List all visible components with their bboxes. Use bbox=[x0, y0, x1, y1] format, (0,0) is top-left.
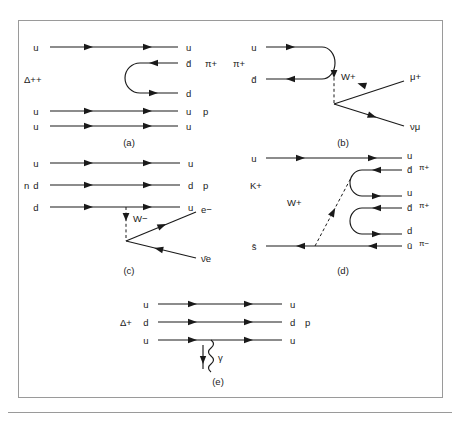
panel-d-line-0-left: u bbox=[251, 153, 256, 164]
panel-a-line-4-left: u bbox=[33, 121, 38, 132]
panel-d-line-1-right: d̄ bbox=[407, 164, 412, 175]
panel-a-line-3-left: u bbox=[33, 106, 38, 117]
panel-c-line-1-right: d bbox=[188, 180, 193, 191]
panel-c-boson-label: W− bbox=[133, 213, 148, 224]
panel-d: K+ u u d̄ u d̄ d s̄ ū π+ π+ π− W+ (d) bbox=[250, 150, 430, 276]
panel-b-initial-particle: π+ bbox=[233, 58, 246, 69]
panel-b: π+ u d̄ W+ μ+ νμ (b) bbox=[233, 42, 421, 149]
panel-c-line-0-left: u bbox=[33, 158, 38, 169]
panel-c-line-1-left: d bbox=[33, 180, 38, 191]
panel-d-meson-1: π+ bbox=[419, 201, 430, 210]
panel-d-line-2-right: u bbox=[407, 187, 412, 198]
panel-a-caption: (a) bbox=[123, 137, 135, 148]
photon-arrowhead bbox=[200, 356, 206, 364]
panel-d-boson-label: W+ bbox=[287, 197, 302, 208]
panel-a-meson-label: π+ bbox=[205, 58, 218, 69]
panel-e: u u d d u u Δ+ p γ (e) bbox=[120, 299, 310, 388]
panel-d-meson-0: π+ bbox=[419, 163, 430, 172]
panel-d-caption: (d) bbox=[337, 265, 349, 276]
panel-b-boson-label: W+ bbox=[341, 71, 356, 82]
panel-e-line-0-right: u bbox=[290, 299, 295, 310]
panel-c-w-arrowhead bbox=[123, 213, 130, 221]
panel-a-line-3-right: u bbox=[186, 106, 191, 117]
panel-d-line-5-left: s̄ bbox=[252, 241, 257, 252]
panel-d-line-0-right: u bbox=[407, 150, 412, 161]
panel-e-caption: (e) bbox=[212, 376, 224, 387]
panel-a-initial-particle: Δ++ bbox=[24, 74, 42, 85]
panel-b-caption: (b) bbox=[337, 137, 349, 148]
feynman-diagram-figure: u u d̄ d π+ u u u u Δ++ p (a) π+ u d̄ bbox=[0, 0, 461, 428]
panel-c-line-2-left: d bbox=[33, 202, 38, 213]
panel-e-boson-label: γ bbox=[218, 352, 223, 363]
panel-c-line-2-right: u bbox=[188, 202, 193, 213]
panel-c-lepton-1: ν̄e bbox=[201, 253, 211, 264]
panel-c-final-particle: p bbox=[203, 180, 208, 191]
panel-c-line-0-right: u bbox=[188, 158, 193, 169]
panel-a-line-1-right: d̄ bbox=[186, 58, 191, 69]
panel-b-line-1-left: d̄ bbox=[251, 74, 256, 85]
diagram-canvas: u u d̄ d π+ u u u u Δ++ p (a) π+ u d̄ bbox=[0, 0, 461, 428]
panel-e-final-particle: p bbox=[305, 317, 310, 328]
photon-wave bbox=[209, 340, 214, 372]
panel-d-initial-particle: K+ bbox=[250, 180, 262, 191]
panel-d-line-3-right: d̄ bbox=[407, 202, 412, 213]
panel-e-line-1-left: d bbox=[143, 317, 148, 328]
panel-b-lepton-1: νμ bbox=[410, 121, 420, 132]
panel-a-line-2-right: d bbox=[186, 88, 191, 99]
panel-c-lepton-0: e− bbox=[201, 204, 212, 215]
panel-e-line-1-right: d bbox=[290, 317, 295, 328]
panel-e-line-2-right: u bbox=[290, 335, 295, 346]
panel-a-line-0-right: u bbox=[186, 42, 191, 53]
panel-d-meson-2: π− bbox=[419, 239, 430, 248]
panel-a: u u d̄ d π+ u u u u Δ++ p (a) bbox=[24, 42, 218, 149]
panel-b-line-0-left: u bbox=[251, 42, 256, 53]
panel-c-initial-particle: n bbox=[24, 180, 29, 191]
panel-d-line-5-right: ū bbox=[407, 240, 412, 251]
panel-e-line-0-left: u bbox=[143, 299, 148, 310]
panel-a-final-particle: p bbox=[203, 106, 208, 117]
panel-e-initial-particle: Δ+ bbox=[120, 317, 132, 328]
panel-b-lepton-0: μ+ bbox=[410, 71, 421, 82]
panel-a-line-0-left: u bbox=[33, 42, 38, 53]
panel-d-line-4-right: d bbox=[407, 225, 412, 236]
panel-c-caption: (c) bbox=[123, 265, 134, 276]
panel-a-line-4-right: u bbox=[186, 121, 191, 132]
panel-c: u u d d d u n p W− e− ν̄e (c) bbox=[24, 158, 212, 277]
panel-e-line-2-left: u bbox=[143, 335, 148, 346]
